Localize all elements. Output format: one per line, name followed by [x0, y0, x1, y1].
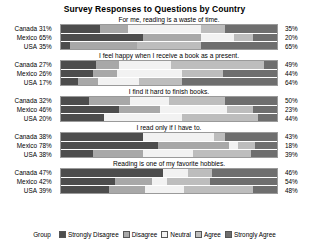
right-percent-label: 35%	[282, 25, 309, 33]
bar-segment	[225, 97, 277, 105]
left-percent-label: 42%	[39, 178, 58, 186]
legend-item-agree[interactable]: Agree	[195, 231, 221, 238]
left-percent-label: 27%	[39, 61, 58, 69]
bar-segments	[61, 114, 277, 121]
bar-segment	[225, 25, 277, 33]
legend-swatch-neutral	[161, 231, 168, 238]
bar-segment	[98, 78, 139, 85]
bar-segments	[61, 34, 277, 41]
right-percent-label: 50%	[282, 97, 309, 105]
bar-segments	[61, 97, 277, 105]
left-percent-label: 20%	[39, 115, 58, 123]
bar-segment	[61, 186, 109, 193]
bar-segments	[61, 186, 277, 193]
left-percent-label: 38%	[39, 133, 58, 141]
bar-segment	[253, 186, 277, 193]
right-percent-label: 48%	[282, 187, 309, 195]
bar-row[interactable]	[61, 177, 277, 185]
bar-row[interactable]	[61, 105, 277, 113]
bar-segment	[253, 34, 277, 41]
bar-segment	[223, 70, 277, 77]
bar-row[interactable]	[61, 97, 277, 105]
bar-segment	[229, 142, 238, 149]
bar-segment	[61, 114, 104, 121]
bar-segment	[61, 150, 93, 157]
bar-segment	[182, 78, 277, 85]
panel-body: Canada32%50%Mexico46%23%USA20%44%	[0, 96, 309, 122]
bar-row[interactable]	[61, 33, 277, 41]
country-label: Canada	[0, 97, 37, 105]
panel-body: Canada47%46%Mexico42%54%USA39%48%	[0, 168, 309, 194]
bar-segment	[78, 78, 97, 85]
bar-segments	[61, 169, 277, 177]
left-percent-label: 26%	[39, 70, 58, 78]
bar-segment	[171, 61, 264, 69]
right-percent-label: 39%	[282, 151, 309, 159]
bar-segment	[212, 169, 277, 177]
bar-segment	[143, 133, 214, 141]
bar-row[interactable]	[61, 113, 277, 121]
bar-row[interactable]	[61, 61, 277, 69]
bar-row[interactable]	[61, 25, 277, 33]
bar-segment	[61, 34, 143, 41]
right-percent-label: 44%	[282, 70, 309, 78]
bar-row[interactable]	[61, 185, 277, 193]
bar-segment	[61, 106, 119, 113]
plot-strip	[60, 168, 278, 194]
bar-segments	[61, 78, 277, 85]
legend-item-neutral[interactable]: Neutral	[161, 231, 191, 238]
bar-segment	[61, 61, 96, 69]
bar-segment	[128, 25, 201, 33]
panel-body: Canada27%49%Mexico26%44%USA17%64%	[0, 60, 309, 86]
bar-row[interactable]	[61, 69, 277, 77]
panel-question: Reading is one of my favorite hobbies.	[60, 159, 278, 168]
legend-title: Group	[33, 231, 51, 238]
country-label: Mexico	[0, 106, 37, 114]
chart-container: Survey Responses to Questions by Country…	[0, 0, 309, 242]
bar-segment	[160, 106, 227, 113]
left-percent-label: 46%	[39, 106, 58, 114]
bar-segment	[210, 178, 277, 185]
bar-row[interactable]	[61, 41, 277, 49]
bar-segment	[96, 61, 120, 69]
bar-segment	[139, 78, 182, 85]
legend-label-agree: Agree	[204, 231, 221, 238]
right-percent-label: 20%	[282, 34, 309, 42]
bar-segment	[251, 150, 277, 157]
legend-item-strongly-agree[interactable]: Strongly Agree	[225, 231, 276, 238]
legend-label-strongly-disagree: Strongly Disagree	[68, 231, 119, 238]
bar-row[interactable]	[61, 77, 277, 85]
bar-segment	[117, 70, 182, 77]
bar-row[interactable]	[61, 141, 277, 149]
chart-panel: I feel happy when I receive a book as a …	[0, 51, 309, 86]
panel-header: Reading is one of my favorite hobbies.	[0, 159, 309, 168]
bar-segment	[163, 169, 189, 177]
bar-segment	[253, 106, 277, 113]
country-label: USA	[0, 43, 37, 51]
legend-swatch-disagree	[123, 231, 130, 238]
bar-segment	[109, 186, 146, 193]
bar-row[interactable]	[61, 169, 277, 177]
country-label: Canada	[0, 169, 37, 177]
bar-row[interactable]	[61, 133, 277, 141]
left-percent-label: 17%	[39, 79, 58, 87]
bar-segment	[130, 97, 169, 105]
legend-item-disagree[interactable]: Disagree	[123, 231, 158, 238]
bar-segment	[93, 70, 117, 77]
bar-segment	[214, 133, 225, 141]
panel-header: I read only if I have to.	[0, 123, 309, 132]
bar-row[interactable]	[61, 149, 277, 157]
country-label: Mexico	[0, 178, 37, 186]
bar-segments	[61, 42, 277, 49]
bar-segment	[61, 42, 70, 49]
bar-segment	[143, 34, 201, 41]
country-label: USA	[0, 79, 37, 87]
legend-item-strongly-disagree[interactable]: Strongly Disagree	[59, 231, 119, 238]
country-label: Mexico	[0, 142, 37, 150]
panel-question: For me, reading is a waste of time.	[60, 15, 278, 24]
bar-segments	[61, 106, 277, 113]
chart-panel: I find it hard to finish books.Canada32%…	[0, 87, 309, 122]
bar-segment	[193, 150, 251, 157]
bar-segment	[61, 142, 158, 149]
right-percent-label: 64%	[282, 79, 309, 87]
